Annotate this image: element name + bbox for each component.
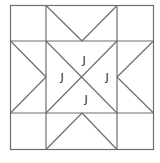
label-center-left: J <box>59 71 63 84</box>
label-center-top: J <box>81 54 85 67</box>
top-cell-diagonal-left <box>46 6 82 42</box>
left-cell-diagonal-bottom <box>11 77 47 113</box>
bottom-cell-diagonal-right <box>82 113 117 150</box>
quilt-block-diagram: J J J J <box>0 0 160 163</box>
right-cell-diagonal-bottom <box>117 77 154 113</box>
top-cell-diagonal-right <box>82 6 117 42</box>
left-cell-diagonal-top <box>11 41 47 77</box>
label-center-bottom: J <box>83 93 87 106</box>
bottom-cell-diagonal-left <box>46 113 82 150</box>
label-center-right: J <box>104 71 108 84</box>
right-cell-diagonal-top <box>117 41 154 77</box>
